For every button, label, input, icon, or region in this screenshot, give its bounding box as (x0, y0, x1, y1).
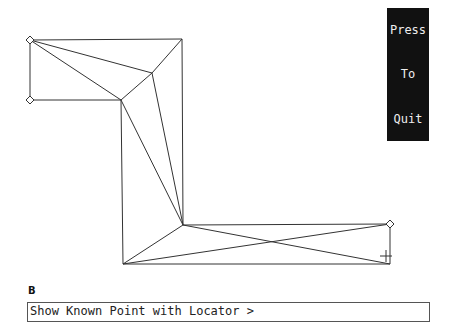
mesh-edge (121, 100, 183, 225)
mesh-edge (121, 73, 152, 100)
mesh-edge (152, 73, 183, 225)
quit-button[interactable]: Press To Quit (387, 8, 429, 141)
mesh-edge (30, 40, 152, 73)
mesh-edge (30, 40, 121, 100)
command-prompt[interactable]: Show Known Point with Locator > (27, 302, 430, 322)
quit-line-3: Quit (394, 112, 423, 126)
mesh-edge (123, 224, 390, 264)
mesh-edge (183, 225, 390, 264)
quit-line-1: Press (390, 23, 426, 37)
mesh-edge (182, 39, 183, 225)
mesh-edge (30, 39, 182, 40)
known-point-marker[interactable] (386, 220, 394, 228)
mesh-canvas[interactable] (0, 0, 450, 290)
mesh-edge (152, 39, 182, 73)
known-point-marker[interactable] (26, 96, 34, 104)
known-point-marker[interactable] (26, 36, 34, 44)
quit-line-2: To (401, 67, 415, 81)
figure-label: B (28, 285, 36, 296)
mesh-edge (121, 100, 123, 264)
mesh-edge (183, 224, 390, 225)
mesh-edge (123, 225, 183, 264)
